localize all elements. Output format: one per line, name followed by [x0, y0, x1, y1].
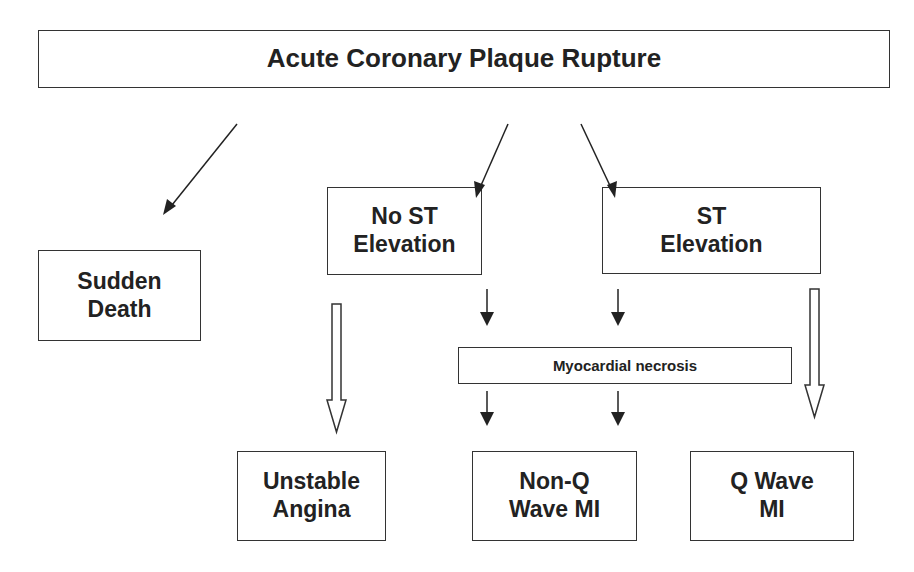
arrow-to-st-icon — [581, 124, 617, 198]
arrow-no-st-to-necrosis-icon — [480, 289, 494, 326]
arrow-necrosis-to-non-q-icon — [480, 391, 494, 426]
arrows-layer — [0, 0, 914, 572]
arrow-to-no-st-icon — [474, 124, 508, 198]
arrow-st-to-necrosis-icon — [611, 289, 625, 326]
hollow-arrow-to-unstable-angina-icon — [327, 304, 346, 432]
arrow-necrosis-to-q-icon — [611, 391, 625, 426]
arrow-to-sudden-death-icon — [163, 124, 237, 215]
hollow-arrow-to-q-wave-mi-icon — [805, 289, 824, 417]
